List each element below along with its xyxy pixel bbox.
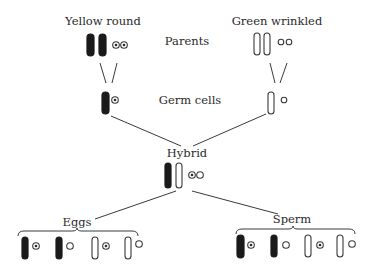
eggs-brace xyxy=(18,228,138,236)
connector-line xyxy=(193,114,266,146)
plain-circle-icon xyxy=(197,172,204,179)
dark-chromosome-icon xyxy=(271,235,277,257)
connector-line xyxy=(112,63,117,83)
light-chromosome-icon xyxy=(254,33,260,55)
yellow-germ-cell xyxy=(102,92,118,114)
sperm-cell xyxy=(271,235,289,257)
light-chromosome-icon xyxy=(176,163,182,188)
dark-chromosome-icon xyxy=(99,34,106,56)
label-yellow-round: Yellow round xyxy=(64,14,141,28)
mendel-inheritance-diagram: Yellow round Green wrinkled Parents Germ… xyxy=(0,0,369,274)
connector-line xyxy=(192,191,278,214)
egg-cell xyxy=(92,237,109,259)
label-germ-cells: Germ cells xyxy=(159,93,222,107)
green-wrinkled-parent xyxy=(254,33,292,55)
hybrid xyxy=(165,163,203,188)
sperm-brace xyxy=(236,226,355,234)
light-chromosome-icon xyxy=(92,237,98,259)
plain-circle-icon xyxy=(281,97,287,103)
plain-circle-icon xyxy=(283,242,290,249)
plain-circle-icon xyxy=(286,39,292,45)
egg-cell xyxy=(56,237,73,259)
light-chromosome-icon xyxy=(125,237,131,259)
connector-line xyxy=(111,116,181,146)
plain-circle-icon xyxy=(67,243,74,250)
dark-chromosome-icon xyxy=(102,92,109,114)
light-chromosome-icon xyxy=(264,33,270,55)
light-chromosome-icon xyxy=(268,92,274,114)
dark-chromosome-icon xyxy=(22,237,28,259)
dark-chromosome-icon xyxy=(87,34,94,56)
dark-chromosome-icon xyxy=(237,235,244,258)
light-chromosome-icon xyxy=(337,235,343,257)
label-parents: Parents xyxy=(165,34,209,48)
dark-chromosome-icon xyxy=(165,163,171,188)
connector-line xyxy=(100,63,106,83)
label-eggs: Eggs xyxy=(62,215,91,229)
label-hybrid: Hybrid xyxy=(167,146,208,160)
sperm-cell xyxy=(337,235,355,257)
plain-circle-icon xyxy=(278,39,284,45)
label-green-wrinkled: Green wrinkled xyxy=(232,14,323,28)
sperm-group xyxy=(237,235,355,258)
light-chromosome-icon xyxy=(305,235,311,257)
connector-line xyxy=(95,191,176,219)
eggs-group xyxy=(22,237,142,259)
dark-chromosome-icon xyxy=(56,237,62,259)
connector-line xyxy=(280,63,287,83)
egg-cell xyxy=(125,237,142,259)
plain-circle-icon xyxy=(349,241,356,248)
egg-cell xyxy=(22,237,39,259)
green-germ-cell xyxy=(268,92,287,114)
plain-circle-icon xyxy=(136,241,143,248)
sperm-cell xyxy=(237,235,254,258)
label-sperm: Sperm xyxy=(273,212,312,226)
sperm-cell xyxy=(305,235,323,257)
connector-line xyxy=(270,63,275,83)
yellow-round-parent xyxy=(87,34,127,56)
